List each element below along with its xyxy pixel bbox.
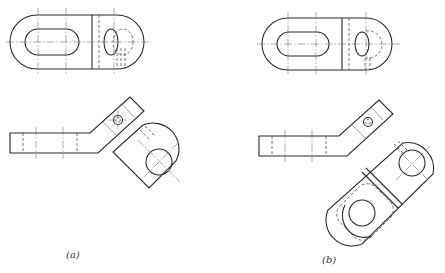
panel-b-auxiliary-view	[326, 141, 434, 246]
panel-b	[257, 12, 434, 246]
panel-a-label: (a)	[66, 249, 80, 260]
technical-drawing	[0, 0, 445, 273]
panel-b-elevation	[259, 100, 393, 162]
panel-a-elevation	[10, 97, 144, 159]
panel-a-plan-view	[6, 8, 150, 74]
panel-b-label: (b)	[322, 254, 336, 265]
panel-a-auxiliary-view	[113, 123, 180, 188]
panel-b-plan-view	[257, 12, 400, 76]
panel-a	[6, 8, 180, 188]
